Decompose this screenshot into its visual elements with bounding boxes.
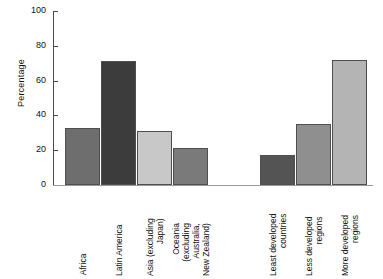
plot-area — [54, 11, 373, 185]
y-tick-label-0: 0 — [2, 180, 46, 189]
x-label-asia-excluding-japan: Asia (excludingJapan) — [137, 188, 172, 276]
bar-more-developed-regions — [332, 60, 367, 185]
x-label-africa: Africa — [65, 188, 100, 276]
x-axis-labels: AfricaLatin AmericaAsia (excludingJapan)… — [54, 188, 373, 279]
bar-least-developed-countries — [260, 155, 295, 185]
x-label-oceania-excluding-australia-new-zealand: Oceania(excludingAustralia,New Zealand) — [173, 188, 208, 276]
y-tick-label-100: 100 — [2, 6, 46, 15]
bar-asia-excluding-japan — [137, 131, 172, 185]
x-label-more-developed-regions: More developedregions — [332, 188, 367, 276]
bar-chart: Percentage 020406080100 AfricaLatin Amer… — [0, 0, 383, 279]
x-axis-line — [53, 185, 373, 186]
y-tick-label-60: 60 — [2, 76, 46, 85]
y-tick-label-40: 40 — [2, 110, 46, 119]
bar-africa — [65, 128, 100, 185]
x-label-less-developed-regions: Less developedregions — [296, 188, 331, 276]
bar-less-developed-regions — [296, 124, 331, 185]
y-tick-label-80: 80 — [2, 41, 46, 50]
bar-oceania-excluding-australia-new-zealand — [173, 148, 208, 185]
x-label-least-developed-countries: Least developedcountries — [260, 188, 295, 276]
y-tick-label-20: 20 — [2, 145, 46, 154]
x-label-latin-america: Latin America — [101, 188, 136, 276]
bar-latin-america — [101, 61, 136, 185]
